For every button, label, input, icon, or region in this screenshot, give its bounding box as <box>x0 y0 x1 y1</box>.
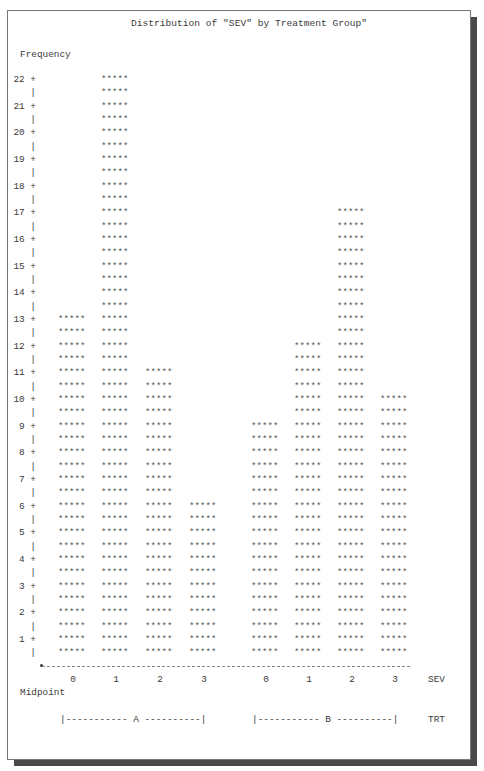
y-tick-15: 15 + <box>8 262 36 272</box>
group-variable-label: TRT <box>428 715 445 725</box>
y-tick-6: 6 + <box>8 502 36 512</box>
x-tick-A-3: 3 <box>189 675 219 685</box>
y-tick-13: 13 + <box>8 315 36 325</box>
y-axis-segment: | <box>8 648 36 658</box>
y-axis-segment: | <box>8 275 36 285</box>
y-tick-2: 2 + <box>8 608 36 618</box>
x-axis-label: Midpoint <box>20 688 65 698</box>
y-axis-segment: | <box>8 568 36 578</box>
group-b-bracket: |----------- B ----------| <box>252 715 398 725</box>
y-tick-10: 10 + <box>8 395 36 405</box>
y-tick-11: 11 + <box>8 368 36 378</box>
y-tick-20: 20 + <box>8 128 36 138</box>
chart-title: Distribution of "SEV" by Treatment Group… <box>131 19 367 29</box>
y-axis-segment: | <box>8 355 36 365</box>
y-axis-segment: | <box>8 195 36 205</box>
y-axis-segment: | <box>8 222 36 232</box>
y-tick-14: 14 + <box>8 288 36 298</box>
y-axis-label: Frequency <box>20 50 71 60</box>
y-tick-18: 18 + <box>8 182 36 192</box>
y-axis-segment: | <box>8 248 36 258</box>
y-axis-segment: | <box>8 168 36 178</box>
x-axis-line <box>42 666 410 667</box>
y-axis-segment: | <box>8 462 36 472</box>
y-axis-segment: | <box>8 328 36 338</box>
y-tick-3: 3 + <box>8 582 36 592</box>
x-tick-B-0: 0 <box>251 675 281 685</box>
y-axis-segment: | <box>8 302 36 312</box>
y-axis-segment: | <box>8 488 36 498</box>
y-tick-19: 19 + <box>8 155 36 165</box>
y-tick-5: 5 + <box>8 528 36 538</box>
y-axis-segment: | <box>8 542 36 552</box>
y-tick-21: 21 + <box>8 102 36 112</box>
group-a-bracket: |----------- A ----------| <box>60 715 206 725</box>
y-axis-segment: | <box>8 115 36 125</box>
y-tick-16: 16 + <box>8 235 36 245</box>
y-tick-12: 12 + <box>8 342 36 352</box>
y-axis-segment: | <box>8 382 36 392</box>
x-tick-B-2: 2 <box>337 675 367 685</box>
x-tick-A-1: 1 <box>101 675 131 685</box>
y-tick-7: 7 + <box>8 475 36 485</box>
x-tick-B-1: 1 <box>294 675 324 685</box>
x-tick-B-3: 3 <box>380 675 410 685</box>
y-tick-17: 17 + <box>8 208 36 218</box>
y-tick-22: 22 + <box>8 75 36 85</box>
y-axis-segment: | <box>8 408 36 418</box>
y-tick-9: 9 + <box>8 422 36 432</box>
y-axis-segment: | <box>8 595 36 605</box>
y-axis-segment: | <box>8 515 36 525</box>
y-tick-1: 1 + <box>8 635 36 645</box>
y-tick-4: 4 + <box>8 555 36 565</box>
y-axis-segment: | <box>8 622 36 632</box>
x-variable-label: SEV <box>428 675 445 685</box>
y-axis-segment: | <box>8 88 36 98</box>
y-axis-segment: | <box>8 142 36 152</box>
y-axis-segment: | <box>8 435 36 445</box>
y-tick-8: 8 + <box>8 448 36 458</box>
x-tick-A-0: 0 <box>58 675 88 685</box>
x-tick-A-2: 2 <box>145 675 175 685</box>
